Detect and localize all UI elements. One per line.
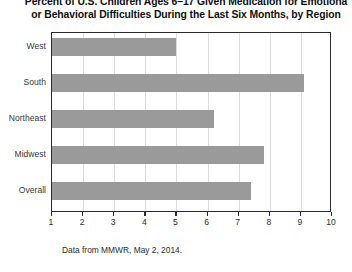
bar	[52, 146, 264, 164]
plot-area	[51, 32, 331, 212]
x-tick-mark	[144, 212, 145, 216]
x-axis: 12345678910	[51, 212, 331, 230]
bar	[52, 74, 304, 92]
x-tick-label: 6	[204, 217, 209, 228]
x-tick-label: 1	[49, 217, 54, 228]
bar-series	[52, 33, 330, 211]
bar	[52, 110, 214, 128]
x-tick-mark	[51, 212, 52, 216]
x-tick-label: 10	[326, 217, 336, 228]
x-tick-label: 4	[142, 217, 147, 228]
x-tick-mark	[269, 212, 270, 216]
x-tick-mark	[331, 212, 332, 216]
x-tick-mark	[82, 212, 83, 216]
x-tick-label: 3	[111, 217, 116, 228]
x-tick-label: 9	[297, 217, 302, 228]
x-tick-mark	[238, 212, 239, 216]
x-tick-mark	[300, 212, 301, 216]
x-tick-label: 5	[173, 217, 178, 228]
bar	[52, 182, 251, 200]
y-axis-label-northeast: Northeast	[0, 113, 46, 123]
y-axis-label-overall: Overall	[0, 185, 46, 195]
x-tick-label: 8	[266, 217, 271, 228]
x-tick-label: 7	[235, 217, 240, 228]
y-axis-category-labels: WestSouthNortheastMidwestOverall	[0, 32, 46, 212]
x-tick-mark	[207, 212, 208, 216]
source-note: Data from MMWR, May 2, 2014.	[62, 245, 182, 256]
bar	[52, 38, 176, 56]
y-axis-label-south: South	[0, 77, 46, 87]
x-tick-mark	[175, 212, 176, 216]
y-axis-label-west: West	[0, 41, 46, 51]
chart-title: Percent of U.S. Children Ages 6–17 Given…	[0, 0, 352, 21]
chart-title-line-1: Percent of U.S. Children Ages 6–17 Given…	[0, 0, 352, 9]
x-tick-label: 2	[80, 217, 85, 228]
chart-title-line-2: or Behavioral Difficulties During the La…	[0, 9, 352, 22]
x-tick-mark	[113, 212, 114, 216]
y-axis-label-midwest: Midwest	[0, 149, 46, 159]
